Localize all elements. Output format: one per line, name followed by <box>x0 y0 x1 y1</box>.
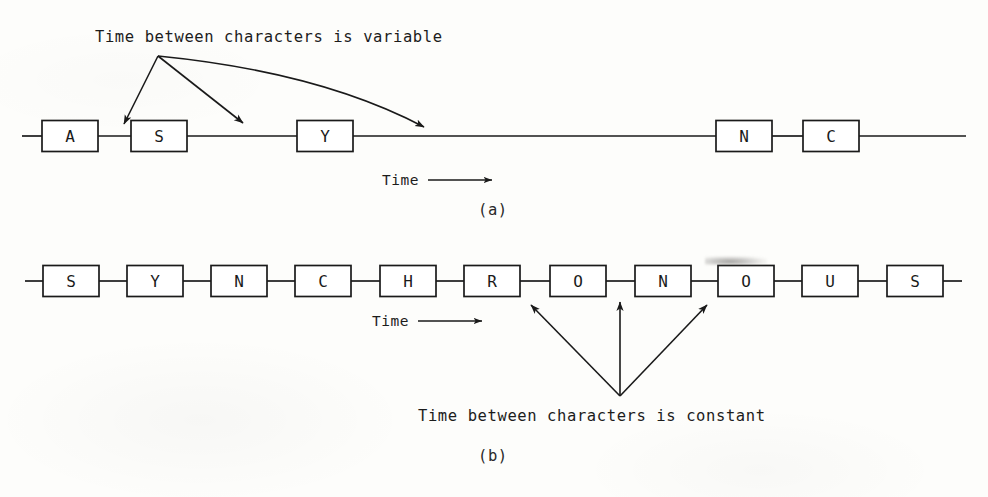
panel-b-character-box: Y <box>127 266 183 297</box>
panel-a-character-box: S <box>131 121 187 152</box>
panel-b-character-letter: C <box>318 272 328 291</box>
panel-a-annotation-arrows <box>124 56 424 127</box>
panel-b-character-box: R <box>464 266 520 297</box>
panel-b-character-box: N <box>211 266 267 297</box>
panel-a-character-letter: A <box>65 127 75 146</box>
panel-b-time-axis-label: Time <box>372 313 409 329</box>
panel-b-character-letter: N <box>658 272 668 291</box>
panel-b-label: (b) <box>478 447 508 465</box>
panel-b-character-letter: U <box>825 272 835 291</box>
panel-b-character-letter: O <box>741 272 751 291</box>
panel-a-character-letter: Y <box>320 127 330 146</box>
panel-b-character-letter: R <box>487 272 497 291</box>
panel-a-character-letter: S <box>154 127 164 146</box>
panel-b-character-letter: Y <box>150 272 160 291</box>
panel-a-character-box: Y <box>297 121 353 152</box>
panel-b-character-box: O <box>550 266 606 297</box>
panel-a-label: (a) <box>478 201 508 219</box>
panel-b-character-letter: S <box>910 272 920 291</box>
panel-a-time-axis-label: Time <box>382 172 419 188</box>
figure-canvas: A S Y N C <box>0 0 988 497</box>
panel-b-character-box: U <box>802 266 858 297</box>
panel-a-character-box: N <box>716 121 772 152</box>
panel-b-character-box: C <box>295 266 351 297</box>
panel-b-character-letter: O <box>573 272 583 291</box>
panel-b-character-letter: N <box>234 272 244 291</box>
panel-b-annotation-arrows <box>531 302 707 396</box>
panel-b-character-letter: S <box>66 272 76 291</box>
panel-b-character-box: N <box>635 266 691 297</box>
panel-a-character-box: A <box>42 121 98 152</box>
panel-a-annotation-text: Time between characters is variable <box>95 28 443 46</box>
panel-b-character-box: S <box>887 266 943 297</box>
panel-b-character-box: H <box>380 266 436 297</box>
panel-b-annotation-text: Time between characters is constant <box>418 407 766 425</box>
panel-a-character-box: C <box>803 121 859 152</box>
panel-a-character-letter: C <box>826 127 836 146</box>
panel-b-character-letter: H <box>403 272 413 291</box>
panel-a-character-letter: N <box>739 127 749 146</box>
panel-b-character-box: O <box>718 266 774 297</box>
panel-b-character-box: S <box>43 266 99 297</box>
